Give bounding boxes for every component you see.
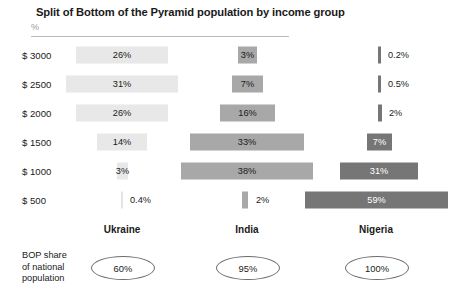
bar-india-2000[interactable]: 16% (220, 105, 275, 122)
bar-nigeria-2000[interactable] (378, 105, 382, 122)
bar-value-nigeria-1000: 31% (370, 166, 388, 175)
bar-nigeria-2500[interactable] (378, 76, 381, 93)
bar-value-india-1000: 38% (238, 166, 256, 175)
bar-value-india-3000: 3% (241, 50, 254, 59)
bar-value-nigeria-2500: 0.5% (388, 79, 409, 89)
bar-value-india-2500: 7% (241, 79, 254, 88)
bar-ukraine-1000[interactable]: 3% (117, 163, 128, 180)
bar-value-ukraine-3000: 26% (113, 50, 131, 59)
bar-ukraine-500[interactable] (121, 192, 123, 209)
footer-area: Ukraine India Nigeria BOP share of natio… (0, 218, 454, 296)
table-row: $ 3000 26% 3% 0.2% (0, 42, 454, 68)
bar-ukraine-2500[interactable]: 31% (66, 76, 178, 93)
bop-share-value-ukraine: 60% (91, 256, 155, 280)
bop-share-value-nigeria: 100% (345, 256, 409, 280)
chart-title: Split of Bottom of the Pyramid populatio… (36, 6, 345, 18)
bar-india-1500[interactable]: 33% (190, 134, 304, 151)
table-row: $ 1000 3% 38% 31% (0, 158, 454, 184)
bar-india-1000[interactable]: 38% (181, 163, 313, 180)
bar-value-ukraine-1000: 3% (116, 166, 129, 175)
row-label-2500: $ 2500 (22, 79, 51, 90)
bar-value-nigeria-1500: 7% (373, 137, 386, 146)
bar-value-india-1500: 33% (238, 137, 256, 146)
bar-ukraine-3000[interactable]: 26% (76, 47, 168, 64)
country-label-ukraine: Ukraine (104, 224, 141, 235)
bar-india-2500[interactable]: 7% (232, 76, 263, 93)
row-label-2000: $ 2000 (22, 108, 51, 119)
bar-value-nigeria-2000: 2% (389, 108, 402, 118)
bar-value-ukraine-1500: 14% (113, 137, 131, 146)
row-label-500: $ 500 (22, 195, 46, 206)
row-label-1500: $ 1500 (22, 137, 51, 148)
bar-nigeria-1500[interactable]: 7% (367, 134, 392, 151)
chart-container: Split of Bottom of the Pyramid populatio… (0, 0, 454, 296)
chart-unit-label: % (31, 22, 39, 32)
country-label-nigeria: Nigeria (359, 224, 393, 235)
bar-value-india-2000: 16% (238, 108, 256, 117)
bar-nigeria-500[interactable]: 59% (305, 192, 448, 209)
bar-india-3000[interactable]: 3% (238, 47, 257, 64)
bop-share-caption-line1: BOP share (22, 250, 67, 260)
country-label-india: India (235, 224, 258, 235)
bar-value-ukraine-2500: 31% (113, 79, 131, 88)
bar-value-nigeria-3000: 0.2% (388, 50, 409, 60)
bar-value-ukraine-500: 0.4% (130, 195, 151, 205)
bop-share-caption-line3: population (22, 273, 64, 283)
bar-ukraine-2000[interactable]: 26% (76, 105, 168, 122)
bar-value-ukraine-2000: 26% (113, 108, 131, 117)
bop-share-caption: BOP share of national population (22, 250, 67, 285)
bop-share-value-india: 95% (216, 256, 280, 280)
table-row: $ 2500 31% 7% 0.5% (0, 71, 454, 97)
bar-india-500[interactable] (242, 192, 248, 209)
bar-nigeria-3000[interactable] (378, 47, 381, 64)
table-row: $ 500 0.4% 2% 59% (0, 187, 454, 213)
title-divider (31, 36, 289, 37)
plot-area: $ 3000 26% 3% 0.2% $ 2500 31% 7% 0.5% $ … (0, 42, 454, 218)
bar-nigeria-1000[interactable]: 31% (340, 163, 418, 180)
bop-share-caption-line2: of national (22, 262, 64, 272)
row-label-3000: $ 3000 (22, 50, 51, 61)
bar-value-nigeria-500: 59% (367, 195, 385, 204)
bar-value-india-500: 2% (256, 195, 269, 205)
row-label-1000: $ 1000 (22, 166, 51, 177)
bar-ukraine-1500[interactable]: 14% (97, 134, 147, 151)
table-row: $ 1500 14% 33% 7% (0, 129, 454, 155)
table-row: $ 2000 26% 16% 2% (0, 100, 454, 126)
